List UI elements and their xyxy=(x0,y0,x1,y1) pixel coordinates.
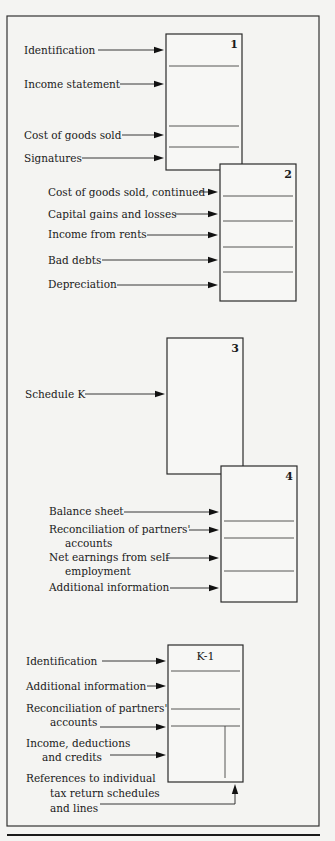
annotation: Reconciliation of partners'accounts xyxy=(26,702,167,730)
annotation-label: Capital gains and losses xyxy=(48,208,177,220)
page-outline xyxy=(221,466,297,602)
annotation-label: Additional information xyxy=(48,581,169,593)
annotation: Reconciliation of partners'accounts xyxy=(49,523,219,549)
page-outline xyxy=(168,645,243,782)
annotation: Capital gains and losses xyxy=(48,208,218,220)
form-page-4: 4 xyxy=(221,466,297,602)
page-number: 4 xyxy=(285,470,293,483)
annotation-label: accounts xyxy=(50,716,97,728)
arrow-right-icon xyxy=(147,232,218,238)
form-page-2: 2 xyxy=(220,164,296,301)
page-number: 2 xyxy=(284,168,292,181)
page-label: K-1 xyxy=(196,650,214,663)
annotation: Balance sheet xyxy=(49,505,219,517)
annotation-label: Net earnings from self xyxy=(49,551,170,563)
form-pages: 1234K-1 xyxy=(166,34,297,782)
arrow-right-icon xyxy=(175,211,218,217)
annotation-label: tax return schedules xyxy=(50,787,160,799)
page-number: 1 xyxy=(230,38,238,51)
annotation-label: Cost of goods sold, continued xyxy=(48,186,205,198)
annotation: References to individualtax return sched… xyxy=(26,772,160,814)
arrow-right-icon xyxy=(117,282,218,288)
arrow-right-icon xyxy=(102,658,166,664)
annotation: Identification xyxy=(24,44,164,56)
annotation-label: employment xyxy=(65,565,131,577)
arrow-right-icon xyxy=(170,585,219,591)
annotation: Bad debts xyxy=(48,254,218,266)
annotation-label: Reconciliation of partners' xyxy=(26,702,167,714)
annotation-label: Additional information xyxy=(25,680,146,692)
arrow-right-icon xyxy=(189,527,219,533)
annotation: Income, deductionsand credits xyxy=(26,737,166,763)
annotation: Additional information xyxy=(48,581,219,593)
annotation-label: Identification xyxy=(26,655,97,667)
page-outline xyxy=(167,338,243,474)
arrow-right-icon xyxy=(122,132,164,138)
annotation-label: Bad debts xyxy=(48,254,101,266)
arrow-right-icon xyxy=(100,724,166,730)
page-outline xyxy=(220,164,296,301)
annotation-label: Depreciation xyxy=(48,278,117,290)
annotation: Income from rents xyxy=(48,228,218,240)
annotation-label: References to individual xyxy=(26,772,156,784)
annotation: Cost of goods sold, continued xyxy=(48,186,218,198)
arrow-right-icon xyxy=(110,752,166,758)
arrow-right-icon xyxy=(120,81,164,87)
annotation-label: Schedule K xyxy=(25,388,85,400)
annotation: Schedule K xyxy=(25,388,165,400)
annotation: Identification xyxy=(26,655,166,667)
arrow-right-icon xyxy=(124,509,219,515)
annotation: Signatures xyxy=(24,152,164,164)
arrow-right-icon xyxy=(85,391,165,397)
annotation-label: Income from rents xyxy=(48,228,147,240)
annotation-label: Balance sheet xyxy=(49,505,124,517)
arrow-right-icon xyxy=(98,47,164,53)
annotation-label: Identification xyxy=(24,44,95,56)
form-page-3: 3 xyxy=(167,338,243,474)
tax-form-diagram: 1234K-1 IdentificationIncome statementCo… xyxy=(0,0,335,841)
arrow-right-icon xyxy=(147,683,166,689)
annotation: Cost of goods sold xyxy=(24,129,164,141)
annotation-label: accounts xyxy=(65,537,112,549)
annotation: Net earnings from selfemployment xyxy=(49,551,219,577)
annotation-label: Signatures xyxy=(24,152,82,164)
arrow-right-icon xyxy=(82,155,164,161)
page-outline xyxy=(166,34,242,170)
annotation-label: Income, deductions xyxy=(26,737,130,749)
annotation-label: and lines xyxy=(50,802,98,814)
annotation-label: and credits xyxy=(42,751,102,763)
annotation-label: Cost of goods sold xyxy=(24,129,122,141)
arrow-right-icon xyxy=(166,555,219,561)
arrow-right-icon xyxy=(102,257,218,263)
annotation: Income statement xyxy=(24,78,164,90)
annotation: Additional information xyxy=(25,680,166,692)
form-schedule-k1: K-1 xyxy=(168,645,243,782)
annotation-label: Reconciliation of partners' xyxy=(49,523,190,535)
page-number: 3 xyxy=(231,342,239,355)
annotation: Depreciation xyxy=(48,278,218,290)
annotation-label: Income statement xyxy=(24,78,121,90)
form-page-1: 1 xyxy=(166,34,242,170)
